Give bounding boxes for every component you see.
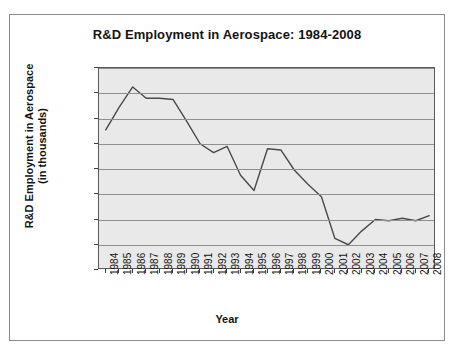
gridline <box>99 68 434 69</box>
y-axis-title: R&D Employment in Aerospace (in thousand… <box>23 46 49 246</box>
x-tick-label: 1986 <box>136 253 147 275</box>
x-tick-label: 1998 <box>297 253 308 275</box>
x-tick-label: 1997 <box>284 253 295 275</box>
x-tick-label: 1987 <box>149 253 160 275</box>
x-tick-label: 1989 <box>176 253 187 275</box>
gridline <box>99 93 434 94</box>
x-tick-label: 2004 <box>378 253 389 275</box>
x-tick-label: 1988 <box>163 253 174 275</box>
x-tick-label: 2003 <box>365 253 376 275</box>
x-axis-title: Year <box>10 313 444 325</box>
y-axis-title-line1: R&D Employment in Aerospace <box>23 46 36 246</box>
x-tick-label: 2001 <box>338 253 349 275</box>
x-tick-label: 2007 <box>419 253 430 275</box>
x-tick-label: 1991 <box>203 253 214 275</box>
x-tick-label: 1990 <box>190 253 201 275</box>
x-tick-label: 1992 <box>217 253 228 275</box>
x-tick-label: 1984 <box>109 253 120 275</box>
x-tick-mark <box>105 269 106 273</box>
gridline <box>99 194 434 195</box>
series-line-path <box>106 87 430 245</box>
x-tick-label: 1985 <box>122 253 133 275</box>
x-tick-label: 1995 <box>257 253 268 275</box>
data-line-series <box>99 68 434 268</box>
gridline <box>99 220 434 221</box>
y-tick-mark <box>94 269 98 270</box>
gridline <box>99 144 434 145</box>
x-tick-label: 1996 <box>271 253 282 275</box>
chart-title: R&D Employment in Aerospace: 1984-2008 <box>10 27 444 42</box>
x-tick-label: 2008 <box>432 253 443 275</box>
x-tick-label: 1999 <box>311 253 322 275</box>
gridline <box>99 169 434 170</box>
x-tick-label: 1994 <box>244 253 255 275</box>
plot-area <box>98 67 435 269</box>
x-tick-label: 2002 <box>351 253 362 275</box>
x-tick-label: 2005 <box>392 253 403 275</box>
gridline <box>99 245 434 246</box>
x-tick-label: 2000 <box>324 253 335 275</box>
y-axis-title-line2: (in thousands) <box>36 46 49 246</box>
gridline <box>99 119 434 120</box>
x-tick-label: 1993 <box>230 253 241 275</box>
chart-figure-frame: R&D Employment in Aerospace: 1984-2008 R… <box>9 14 445 341</box>
x-tick-label: 2006 <box>405 253 416 275</box>
